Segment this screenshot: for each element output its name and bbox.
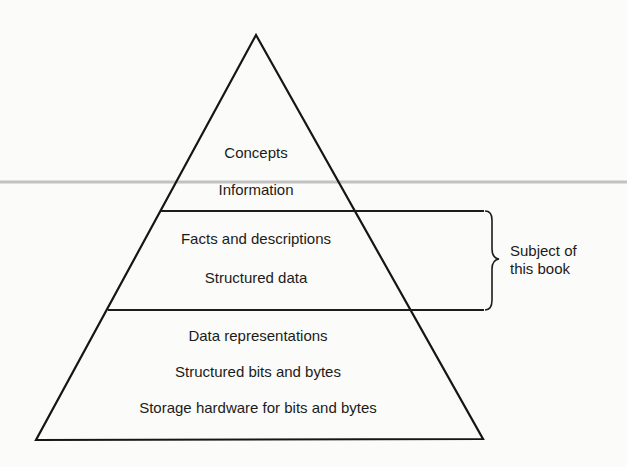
level-middle-line-2: Structured data bbox=[205, 269, 308, 286]
annotation-line-2: this book bbox=[510, 260, 571, 277]
curly-brace-icon bbox=[485, 211, 499, 310]
data-pyramid-diagram: Concepts Information Facts and descripti… bbox=[0, 0, 627, 467]
level-top-line-2: Information bbox=[218, 181, 293, 198]
level-bottom-line-1: Data representations bbox=[188, 327, 327, 344]
level-top-line-1: Concepts bbox=[224, 144, 287, 161]
level-middle-line-1: Facts and descriptions bbox=[181, 230, 331, 247]
level-bottom-line-3: Storage hardware for bits and bytes bbox=[139, 399, 377, 416]
annotation-line-1: Subject of bbox=[510, 242, 578, 259]
level-bottom-line-2: Structured bits and bytes bbox=[175, 363, 341, 380]
